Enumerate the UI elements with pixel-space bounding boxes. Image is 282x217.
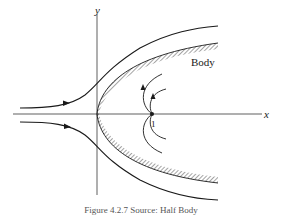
half-body-flow-diagram: y x Body 1 [0,0,282,217]
figure-caption: Figure 4.2.7 Source: Half Body [0,205,282,215]
point-1-label: 1 [151,119,156,129]
y-axis-label: y [94,4,100,16]
lower-streamline [20,122,218,200]
x-axis-label: x [263,108,269,120]
source-arrow-inner-icon [151,93,156,99]
body-label: Body [191,56,215,68]
body-hatch-lower [97,114,218,183]
stagnation-point [150,112,154,116]
upper-streamline-arrow-icon [63,101,70,107]
source-arrow-outer-icon [141,84,146,90]
source-streamline-inner-upper [150,89,166,114]
body-hatch-upper [97,43,218,114]
upper-streamline [20,26,218,108]
lower-streamline-arrow-icon [64,124,71,130]
